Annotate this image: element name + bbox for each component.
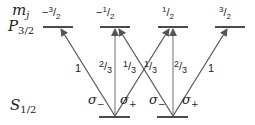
strength-label-1-3-a: 1/3 [123, 59, 136, 75]
polarization-sigma-minus-2: σ− [149, 92, 165, 109]
mj-value-p3-2: 3/2 [219, 5, 232, 21]
mj-value-m3-2: −3/2 [42, 5, 61, 21]
svg-text:−1/2: −1/2 [96, 5, 115, 21]
strength-label-1-b: 1 [208, 62, 214, 74]
mj-value-m1-2: −1/2 [96, 5, 115, 21]
polarization-sigma-plus-1: σ+ [120, 92, 136, 109]
strength-label-1: 1 [75, 62, 81, 74]
s12-label: S1/2 [10, 96, 36, 115]
mj-value-p1-2: 1/2 [162, 5, 175, 21]
strength-label-2-3-b: 2/3 [174, 59, 187, 75]
svg-text:3/2: 3/2 [219, 5, 232, 21]
strength-label-2-3-a: 2/3 [99, 59, 112, 75]
polarization-sigma-plus-2: σ+ [182, 92, 198, 109]
svg-text:1/2: 1/2 [162, 5, 175, 21]
p32-label: P3/2 [7, 17, 34, 36]
energy-level-diagram: mj P3/2 S1/2 −3/2 −1/2 1/2 3/2 1 2/3 1/3… [0, 0, 255, 125]
svg-text:−3/2: −3/2 [42, 5, 61, 21]
